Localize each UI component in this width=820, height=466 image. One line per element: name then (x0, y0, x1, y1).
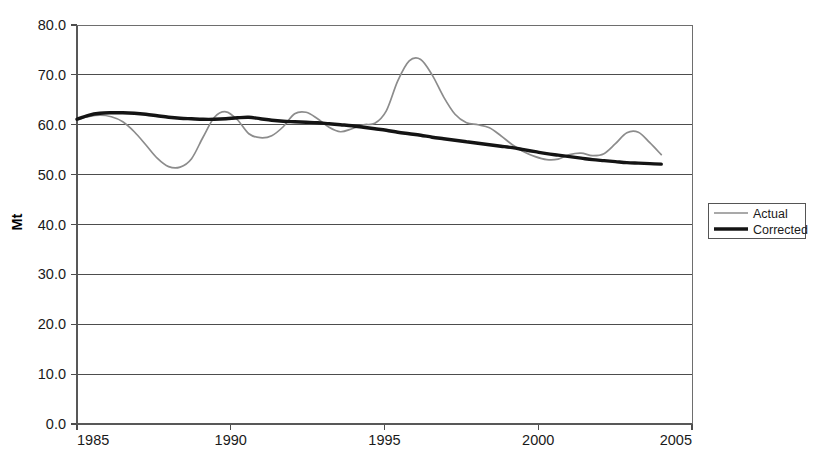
line-chart: 0.010.020.030.040.050.060.070.080.0 1985… (0, 0, 820, 466)
legend-label-actual: Actual (753, 207, 788, 221)
y-tick-label-30: 30.0 (38, 266, 66, 282)
x-tick-label-1990: 1990 (215, 432, 247, 448)
y-tick-label-40: 40.0 (38, 217, 66, 233)
x-tick-label-2000: 2000 (522, 432, 554, 448)
y-tick-label-20: 20.0 (38, 316, 66, 332)
gridlines-group (77, 25, 692, 374)
legend-label-corrected: Corrected (753, 223, 808, 237)
x-tick-label-2005: 2005 (660, 432, 692, 448)
y-tick-label-0: 0.0 (46, 416, 66, 432)
y-tick-label-50: 50.0 (38, 167, 66, 183)
y-tick-label-80: 80.0 (38, 17, 66, 33)
x-axis-tick-labels: 19851990199520002005 (77, 432, 692, 448)
y-tick-label-70: 70.0 (38, 67, 66, 83)
y-axis-title: Mt (9, 213, 25, 230)
x-tick-label-1985: 1985 (77, 432, 109, 448)
x-tick-label-1995: 1995 (368, 432, 400, 448)
chart-container: 0.010.020.030.040.050.060.070.080.0 1985… (0, 0, 820, 466)
y-tick-label-10: 10.0 (38, 366, 66, 382)
tick-marks-group (71, 25, 692, 430)
chart-legend: Actual Corrected (708, 203, 808, 238)
y-tick-label-60: 60.0 (38, 117, 66, 133)
y-axis-tick-labels: 0.010.020.030.040.050.060.070.080.0 (38, 17, 66, 432)
series-line-corrected (77, 113, 661, 164)
